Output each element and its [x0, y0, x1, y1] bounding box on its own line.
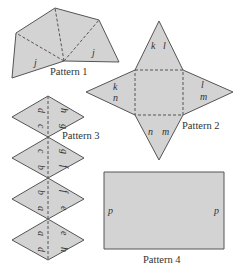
edge-label: h [59, 247, 70, 252]
edge-label-p-left: p [107, 205, 113, 216]
edge-label-k-top: k [151, 40, 156, 51]
edge-label-l-right: l [201, 79, 204, 90]
pattern-2-caption: Pattern 2 [182, 120, 220, 131]
edge-label: a [36, 206, 47, 211]
pattern-1-caption: Pattern 1 [50, 66, 88, 77]
pattern-3-caption: Pattern 3 [62, 130, 100, 141]
edge-label: c [36, 149, 47, 154]
edge-label-l-top: l [163, 40, 166, 51]
pattern-3: d c h g c b g f b a f e a d e h Pattern … [12, 96, 100, 260]
edge-label-m-bottom: m [162, 126, 169, 137]
edge-label: b [36, 165, 47, 170]
edge-label-m-right: m [200, 91, 207, 102]
edge-label: g [59, 149, 70, 154]
edge-label: b [36, 190, 47, 195]
edge-label-p-right: p [213, 205, 219, 216]
pattern-4: p p Pattern 4 [104, 172, 224, 265]
edge-label-k-left: k [113, 81, 118, 92]
edge-label: c [36, 124, 47, 129]
edge-label: g [59, 124, 70, 129]
edge-label: a [36, 231, 47, 236]
pattern-1: j j Pattern 1 [12, 8, 119, 78]
edge-label: e [59, 206, 70, 211]
nets-diagram: j j Pattern 1 k l k n l m n m Pattern 2 … [0, 0, 238, 271]
edge-label: h [59, 108, 70, 113]
edge-label: e [59, 231, 70, 236]
edge-label-n-bottom: n [148, 126, 153, 137]
pattern-4-caption: Pattern 4 [143, 254, 181, 265]
edge-label-n-left: n [113, 92, 118, 103]
pattern-4-rectangle [104, 172, 224, 249]
